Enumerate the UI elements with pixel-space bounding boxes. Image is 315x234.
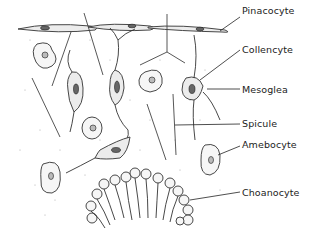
label-amebocyte: Amebocyte — [242, 139, 297, 150]
choanocyte-chamber — [86, 168, 193, 228]
diagram-illustration — [0, 0, 315, 234]
label-mesoglea: Mesoglea — [242, 84, 288, 95]
label-choanocyte: Choanocyte — [242, 187, 300, 198]
label-pinacocyte: Pinacocyte — [242, 5, 294, 16]
label-collencyte: Collencyte — [242, 44, 293, 55]
amebocytes — [33, 43, 220, 193]
sponge-cell-diagram: Pinacocyte Collencyte Mesoglea Spicule A… — [0, 0, 315, 234]
pinacocyte-layer — [18, 24, 228, 40]
label-spicule: Spicule — [242, 118, 277, 129]
collencytes — [66, 35, 220, 173]
spicules — [32, 13, 185, 160]
